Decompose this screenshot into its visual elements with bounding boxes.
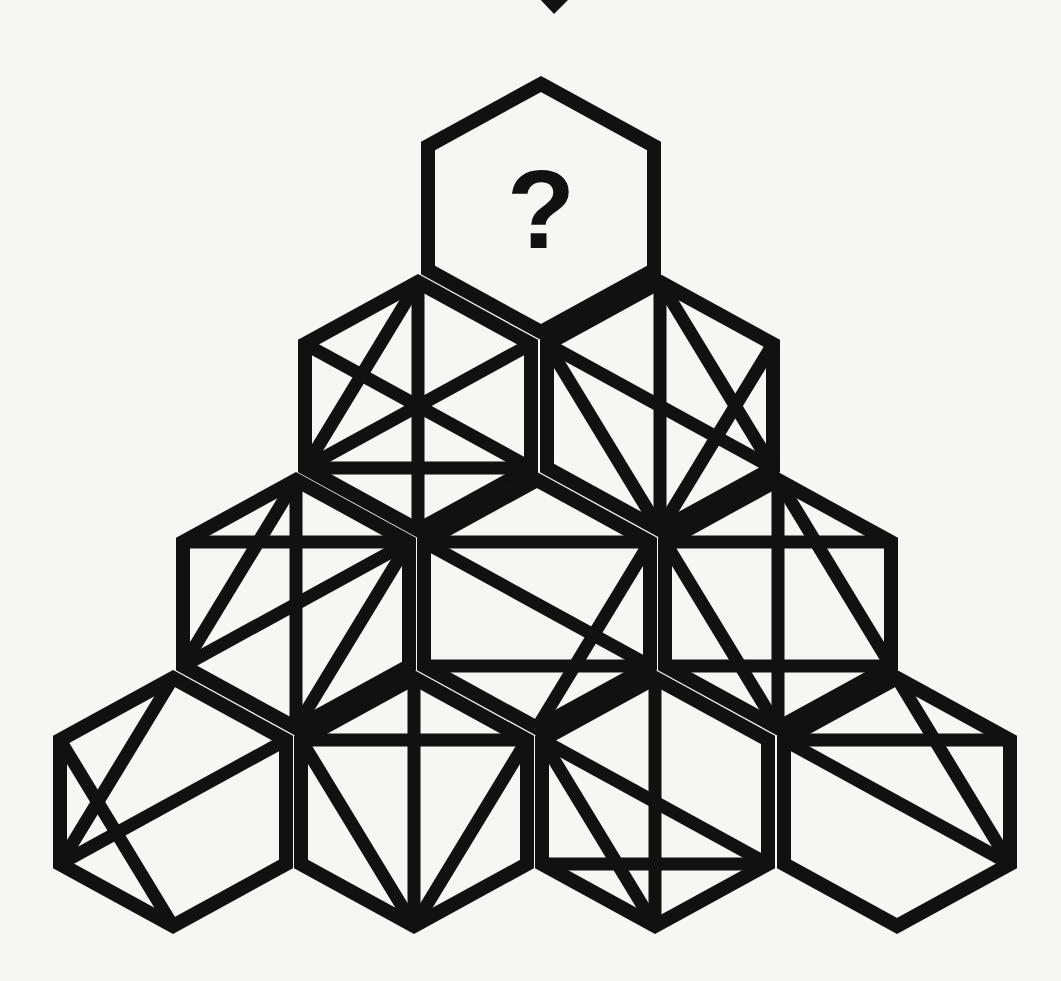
hexagon-tile-r3c3 [665, 480, 891, 728]
hexagon-tile-r3c2 [424, 480, 650, 728]
hexagon-tile-r4c4 [784, 678, 1010, 926]
hexagon-tile-r4c3 [542, 678, 768, 926]
question-mark: ? [507, 147, 575, 272]
hexagon-tile-r3c1 [183, 480, 409, 728]
hexagon-tile-r2c2 [547, 282, 773, 530]
down-arrow-icon [537, 0, 572, 14]
hexagon-tile-r4c2 [301, 678, 527, 926]
hexagon-tile-r2c1 [305, 282, 531, 530]
hexagon-tile-r4c1 [60, 678, 286, 926]
hexagon-pyramid-puzzle: ? [0, 0, 1061, 981]
